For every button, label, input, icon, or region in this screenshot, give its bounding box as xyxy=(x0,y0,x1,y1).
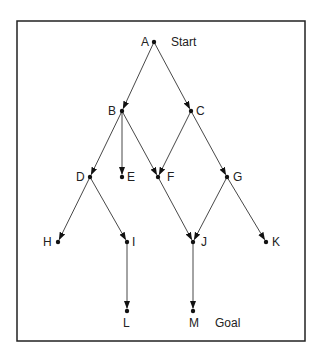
edge-C-G xyxy=(191,111,226,174)
node-label-L: L xyxy=(123,316,130,330)
node-label-B: B xyxy=(108,104,116,118)
node-C xyxy=(189,109,193,113)
node-K xyxy=(264,240,268,244)
node-I xyxy=(125,240,129,244)
node-label-M: M xyxy=(189,316,199,330)
node-E xyxy=(120,175,124,179)
node-label-F: F xyxy=(167,170,174,184)
node-F xyxy=(156,175,160,179)
node-J xyxy=(191,240,195,244)
start-annotation: Start xyxy=(171,35,197,49)
edge-B-D xyxy=(91,111,122,174)
node-label-E: E xyxy=(127,170,135,184)
edge-D-H xyxy=(59,177,90,239)
search-tree-diagram: ABCDEFGHIJKLM StartGoal xyxy=(0,0,322,355)
node-B xyxy=(120,109,124,113)
node-H xyxy=(56,240,60,244)
edge-F-J xyxy=(158,177,192,239)
diagram-frame xyxy=(17,21,305,341)
node-label-H: H xyxy=(43,235,52,249)
edge-B-F xyxy=(122,111,157,174)
node-label-I: I xyxy=(132,235,135,249)
node-D xyxy=(88,175,92,179)
node-label-K: K xyxy=(272,235,280,249)
node-label-C: C xyxy=(196,104,205,118)
edge-G-K xyxy=(227,177,264,239)
edge-D-I xyxy=(90,177,126,239)
node-A xyxy=(152,40,156,44)
edge-A-B xyxy=(123,42,154,108)
edge-C-F xyxy=(159,111,191,174)
node-label-J: J xyxy=(201,235,207,249)
edge-A-C xyxy=(154,42,190,108)
goal-annotation: Goal xyxy=(215,316,240,330)
node-label-A: A xyxy=(141,35,149,49)
node-G xyxy=(225,175,229,179)
node-M xyxy=(191,309,195,313)
edge-G-J xyxy=(194,177,227,239)
node-L xyxy=(125,309,129,313)
node-label-G: G xyxy=(233,170,242,184)
node-label-D: D xyxy=(76,170,85,184)
